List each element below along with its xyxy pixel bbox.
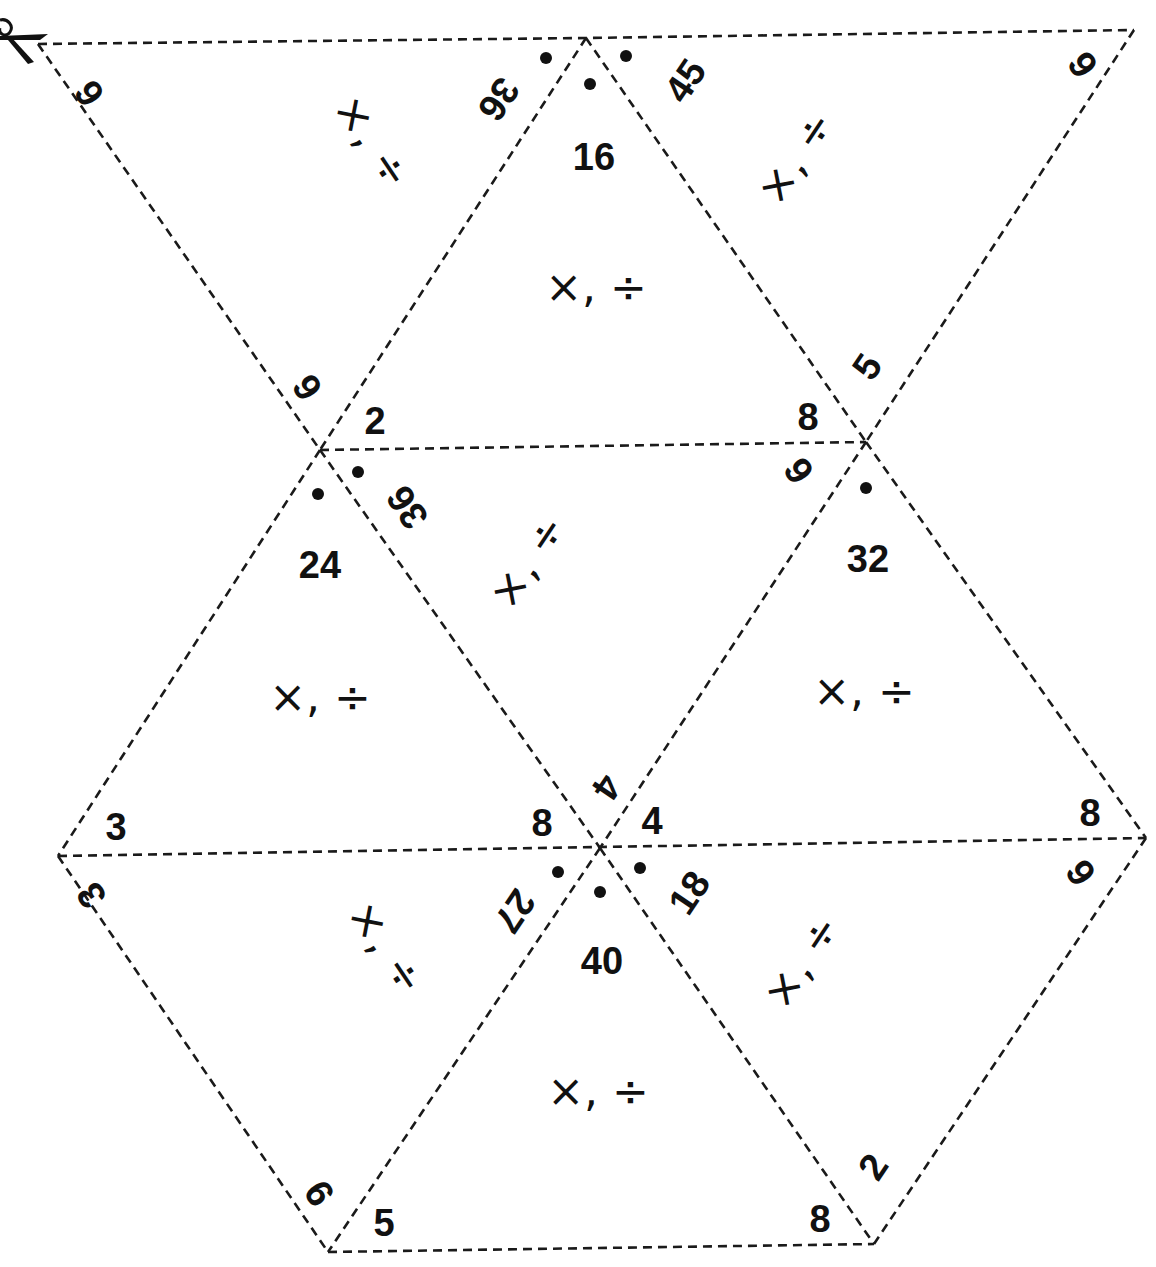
center-number: 40 xyxy=(581,940,623,982)
edge-label: 6 xyxy=(284,367,331,408)
edge-label: 8 xyxy=(797,396,818,438)
edge-label: 8 xyxy=(809,1198,830,1240)
orientation-dot xyxy=(584,78,596,90)
edge-label: 8 xyxy=(1079,792,1100,834)
edge-label: 45 xyxy=(656,51,714,110)
triangle-row3-left[interactable]: 3 27 9 ×, ÷ xyxy=(68,866,564,1214)
scissors-icon xyxy=(0,20,48,64)
operation-label: ×, ÷ xyxy=(323,85,422,198)
triangle-row3-right[interactable]: 18 9 2 ×, ÷ xyxy=(660,852,1104,1187)
orientation-dot xyxy=(594,886,606,898)
orientation-dot xyxy=(540,52,552,64)
edge-label: 6 xyxy=(66,73,113,114)
triangle-row1-left[interactable]: 6 36 6 ×, ÷ xyxy=(66,70,528,408)
edge-label: 18 xyxy=(660,863,718,922)
operation-label: ×, ÷ xyxy=(547,1065,649,1116)
orientation-dot xyxy=(620,50,632,62)
operation-label: ×, ÷ xyxy=(478,505,577,618)
triangle-row2-right[interactable]: 32 ×, ÷ 4 8 xyxy=(641,482,1100,842)
operation-label: ×, ÷ xyxy=(746,101,845,214)
triangle-row2-left[interactable]: 24 ×, ÷ 3 8 xyxy=(105,466,552,848)
orientation-dot xyxy=(860,482,872,494)
orientation-dot xyxy=(634,862,646,874)
edge-label: 5 xyxy=(844,346,891,387)
edge-label: 5 xyxy=(373,1202,394,1244)
edge-label: 36 xyxy=(470,70,528,129)
edge-label: 2 xyxy=(364,400,385,442)
center-number: 24 xyxy=(299,544,341,586)
triangle-row1-middle[interactable]: 16 ×, ÷ 2 8 xyxy=(364,50,818,442)
puzzle-sheet: 6 36 6 ×, ÷ 16 ×, ÷ 2 8 45 9 5 ×, ÷ 24 ×… xyxy=(0,0,1156,1267)
edge-label: 2 xyxy=(850,1146,897,1187)
orientation-dot xyxy=(552,866,564,878)
operation-label: ×, ÷ xyxy=(545,261,647,312)
triangle-row3-middle[interactable]: 40 ×, ÷ 5 8 xyxy=(373,862,830,1244)
operation-label: ×, ÷ xyxy=(337,891,436,1004)
orientation-dot xyxy=(352,466,364,478)
operation-label: ×, ÷ xyxy=(813,665,915,716)
edge-label: 4 xyxy=(583,767,630,808)
edge-label: 4 xyxy=(641,800,662,842)
edge-label: 9 xyxy=(296,1173,343,1214)
operation-label: ×, ÷ xyxy=(269,671,371,722)
edge-label: 27 xyxy=(486,882,544,941)
edge-label: 9 xyxy=(1059,44,1106,85)
edge-label: 8 xyxy=(531,802,552,844)
orientation-dot xyxy=(312,488,324,500)
edge-label: 3 xyxy=(105,806,126,848)
edge-label: 9 xyxy=(1057,852,1104,893)
center-number: 32 xyxy=(847,538,889,580)
edge-label: 9 xyxy=(775,450,822,491)
edge-label: 36 xyxy=(378,478,436,537)
operation-label: ×, ÷ xyxy=(752,905,851,1018)
center-number: 16 xyxy=(573,136,615,178)
triangle-row1-right[interactable]: 45 9 5 ×, ÷ xyxy=(656,44,1106,387)
